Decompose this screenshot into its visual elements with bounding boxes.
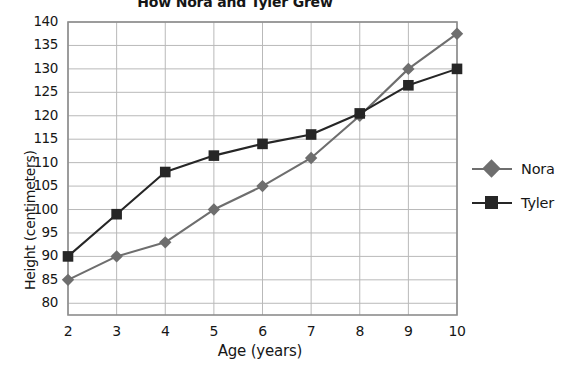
y-axis-tick-label: 140 bbox=[14, 13, 58, 29]
y-axis-tick-label: 105 bbox=[14, 177, 58, 193]
x-axis-tick-label: 5 bbox=[199, 323, 229, 339]
x-axis-tick-label: 4 bbox=[150, 323, 180, 339]
data-point-marker bbox=[62, 274, 74, 286]
legend-item-nora[interactable]: Nora bbox=[472, 152, 555, 186]
y-axis-tick-label: 90 bbox=[14, 247, 58, 263]
y-axis-tick-label: 130 bbox=[14, 60, 58, 76]
data-point-marker bbox=[452, 64, 463, 75]
square-marker-icon bbox=[485, 196, 498, 209]
x-axis-tick-label: 7 bbox=[296, 323, 326, 339]
diamond-marker-icon bbox=[482, 159, 500, 177]
y-axis-tick-label: 120 bbox=[14, 107, 58, 123]
legend-key bbox=[472, 195, 512, 211]
y-axis-tick-label: 125 bbox=[14, 83, 58, 99]
x-axis-tick-label: 6 bbox=[248, 323, 278, 339]
line-chart: How Nora and Tyler Grew Height (centimet… bbox=[0, 0, 562, 373]
data-point-marker bbox=[354, 108, 365, 119]
y-axis-tick-label: 135 bbox=[14, 36, 58, 52]
data-point-marker bbox=[257, 139, 268, 150]
data-point-marker bbox=[208, 203, 220, 215]
x-axis-tick-label: 8 bbox=[345, 323, 375, 339]
legend-label: Nora bbox=[521, 161, 555, 177]
x-axis-tick-label: 9 bbox=[393, 323, 423, 339]
y-axis-tick-label: 95 bbox=[14, 224, 58, 240]
y-axis-tick-label: 85 bbox=[14, 271, 58, 287]
y-axis-tick-label: 110 bbox=[14, 154, 58, 170]
x-axis-tick-label: 3 bbox=[102, 323, 132, 339]
data-point-marker bbox=[403, 80, 414, 91]
x-axis-tick-label: 2 bbox=[53, 323, 83, 339]
y-axis-tick-label: 100 bbox=[14, 201, 58, 217]
data-point-marker bbox=[256, 180, 268, 192]
legend-label: Tyler bbox=[521, 195, 554, 211]
y-axis-tick-label: 115 bbox=[14, 130, 58, 146]
data-point-marker bbox=[111, 209, 122, 220]
data-point-marker bbox=[63, 251, 74, 262]
x-axis-tick-label: 10 bbox=[442, 323, 472, 339]
data-point-marker bbox=[306, 129, 317, 140]
legend-item-tyler[interactable]: Tyler bbox=[472, 186, 555, 220]
data-point-marker bbox=[160, 167, 171, 178]
y-axis-tick-label: 80 bbox=[14, 294, 58, 310]
legend-key bbox=[472, 161, 512, 177]
data-point-marker bbox=[159, 236, 171, 248]
data-point-marker bbox=[110, 250, 122, 262]
data-point-marker bbox=[209, 150, 220, 161]
chart-legend: NoraTyler bbox=[472, 152, 555, 220]
